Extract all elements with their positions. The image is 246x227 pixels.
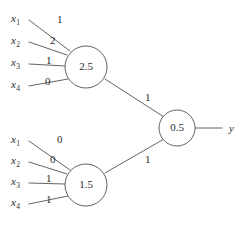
weight-label-hidden-bottom-to-output: 1: [145, 154, 151, 165]
edge-hidden-bottom-to-output: [105, 139, 164, 173]
weight-label-bottom-x4: 1: [46, 194, 52, 205]
weight-label-bottom-x3: 1: [46, 173, 52, 184]
output-label-y: y: [229, 123, 234, 134]
weight-label-top-x4: 0: [45, 76, 51, 87]
input-label-top-x4: x4: [11, 79, 20, 90]
weight-label-bottom-x1: 0: [57, 134, 63, 145]
input-label-top-x1: x1: [11, 13, 20, 24]
weight-label-top-x2: 2: [50, 35, 56, 46]
edge-hidden-top-to-output: [105, 79, 164, 117]
input-label-bottom-x1: x1: [11, 134, 20, 145]
neural-network-diagram: x1 x2 x3 x4 1 2 1 0 2.5 x1 x2 x3 x4 0 0 …: [0, 0, 246, 227]
node-value-hidden-top: 2.5: [66, 61, 106, 72]
input-label-top-x3: x3: [11, 57, 20, 68]
input-label-bottom-x4: x4: [11, 197, 20, 208]
node-value-hidden-bottom: 1.5: [66, 179, 106, 190]
diagram-canvas: [0, 0, 246, 227]
weight-label-bottom-x2: 0: [50, 154, 56, 165]
weight-label-hidden-top-to-output: 1: [145, 92, 151, 103]
weight-label-top-x1: 1: [57, 14, 63, 25]
input-label-bottom-x2: x2: [11, 155, 20, 166]
input-label-bottom-x3: x3: [11, 176, 20, 187]
node-value-output: 0.5: [157, 122, 197, 133]
input-label-top-x2: x2: [11, 35, 20, 46]
weight-label-top-x3: 1: [46, 55, 52, 66]
